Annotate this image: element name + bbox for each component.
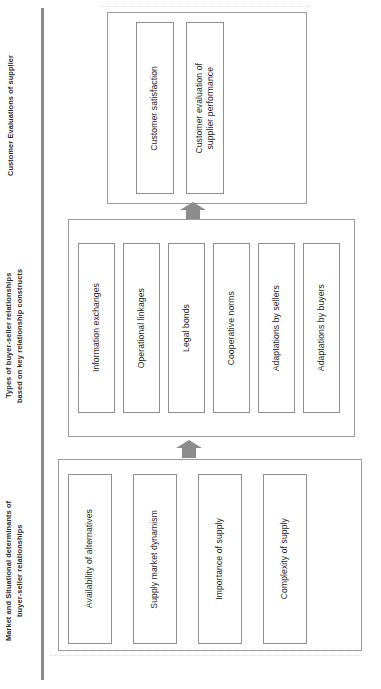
- card-label: Adaptations by sellers: [271, 285, 282, 371]
- card-customer-satisfaction[interactable]: Customer satisfaction: [136, 22, 174, 194]
- card-label: Complexity of supply: [279, 518, 290, 599]
- card-cooperative-norms[interactable]: Cooperative norms: [213, 243, 250, 413]
- card-label: Customer satisfaction: [149, 66, 160, 151]
- card-label: Information exchanges: [91, 283, 102, 372]
- card-operational-linkages[interactable]: Operational linkages: [123, 243, 160, 413]
- card-label: Importance of supply: [214, 518, 225, 600]
- scan-artifact-line-top: [100, 6, 310, 11]
- card-label: Customer evaluation of supplier performa…: [194, 63, 216, 154]
- card-customer-evaluation-of-supplier-performance[interactable]: Customer evaluation of supplier performa…: [186, 22, 224, 194]
- section-label-customer-evaluations: Customer Evaluations of supplier: [6, 28, 36, 203]
- card-label: Adaptations by buyers: [316, 284, 327, 371]
- block-arrow-up-icon-types-to-outcomes: [180, 202, 206, 220]
- block-arrow-up-icon-determinants-to-types: [176, 440, 202, 458]
- section-label-market-determinants: Market and Situational determinants of b…: [4, 468, 38, 673]
- card-group-customer-evaluations: Customer satisfaction Customer evaluatio…: [136, 22, 224, 194]
- card-legal-bonds[interactable]: Legal bonds: [168, 243, 205, 413]
- section-label-relationship-types: Types of buyer-seller relationships base…: [4, 238, 38, 433]
- card-group-market-determinants: Availability of alternatives Supply mark…: [68, 474, 307, 644]
- card-label: Legal bonds: [181, 304, 192, 352]
- vertical-divider-line: [41, 8, 44, 680]
- card-group-relationship-types: Information exchanges Operational linkag…: [78, 243, 340, 413]
- card-adaptations-by-sellers[interactable]: Adaptations by sellers: [258, 243, 295, 413]
- card-importance-of-supply[interactable]: Importance of supply: [198, 474, 242, 644]
- card-supply-market-dynamism[interactable]: Supply market dynamism: [133, 474, 177, 644]
- card-label: Operational linkages: [136, 288, 147, 368]
- card-label: Availability of alternatives: [84, 509, 95, 608]
- card-availability-of-alternatives[interactable]: Availability of alternatives: [68, 474, 112, 644]
- card-adaptations-by-buyers[interactable]: Adaptations by buyers: [303, 243, 340, 413]
- card-information-exchanges[interactable]: Information exchanges: [78, 243, 115, 413]
- card-label: Supply market dynamism: [149, 510, 160, 609]
- card-label: Cooperative norms: [226, 291, 237, 365]
- card-complexity-of-supply[interactable]: Complexity of supply: [263, 474, 307, 644]
- scan-artifact-line-bottom: [50, 655, 362, 662]
